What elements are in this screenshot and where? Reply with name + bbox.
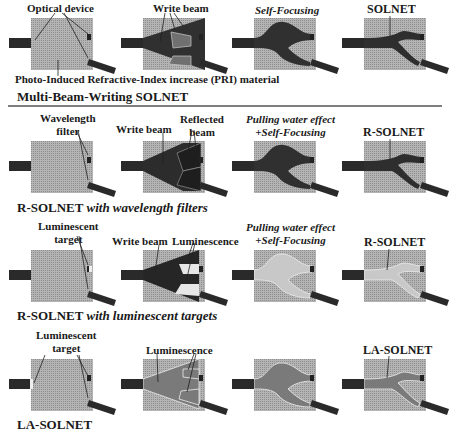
label-optical-device: Optical device: [27, 3, 94, 14]
label-r-solnet-2: R-SOLNET: [364, 237, 425, 248]
row2-panel2-write-reflected: [121, 141, 228, 197]
label-write-beam-2: Write beam: [116, 124, 172, 135]
row2-panel1-filters: [9, 141, 116, 197]
label-wavelength-filter: Wavelength filter: [40, 113, 96, 137]
row1-panel1-initial: [9, 18, 116, 74]
row-title-la-solnet: LA-SOLNET: [17, 418, 92, 431]
row1-panel2-write-beam: [121, 18, 228, 74]
label-luminescent-target-2: Luminescent target: [36, 330, 97, 354]
label-pulling-water-1: Pulling water effect +Self-Focusing: [246, 114, 335, 138]
row-title-r-solnet-luminescent: R-SOLNET with luminescent targets: [17, 309, 217, 322]
label-luminescent-target-1: Luminescent target: [38, 221, 99, 245]
row1-panel3-self-focusing: [232, 18, 339, 74]
row3-panel2-luminescence: [121, 250, 228, 306]
label-write-beam: Write beam: [153, 3, 209, 14]
label-la-solnet: LA-SOLNET: [363, 345, 432, 356]
row3-panel1-targets: [9, 250, 116, 306]
label-reflected-beam: Reflected beam: [180, 114, 224, 138]
label-pulling-water-2: Pulling water effect +Self-Focusing: [246, 222, 335, 246]
row2-leader-lines: [76, 130, 390, 180]
row4-panel4-la-solnet: [342, 359, 449, 415]
row3-panel4-r-solnet: [342, 250, 449, 306]
row4-panel2-luminescence: [121, 359, 228, 415]
row2-panel3-pulling-water: [232, 141, 339, 197]
row-title-multi-beam: Multi-Beam-Writing SOLNET: [17, 90, 188, 103]
row4-panel3-self-focusing: [232, 359, 339, 415]
label-luminescence-1: Luminescence: [172, 236, 239, 247]
label-write-beam-3: Write beam: [112, 236, 168, 247]
row4-panel1-targets: [9, 359, 116, 415]
label-solnet: SOLNET: [367, 4, 416, 15]
label-pri-material: Photo-Induced Refractive-Index increase …: [15, 74, 279, 85]
label-r-solnet-1: R-SOLNET: [363, 127, 424, 138]
row1-panel4-solnet: [342, 18, 449, 74]
row2-panel4-r-solnet: [342, 141, 449, 197]
label-self-focusing: Self-Focusing: [255, 5, 319, 16]
label-luminescence-2: Luminescence: [146, 345, 213, 356]
row-title-text: Multi-Beam-Writing SOLNET: [17, 89, 188, 104]
row-title-r-solnet-filters: R-SOLNET with wavelength filters: [17, 201, 208, 214]
row3-panel3-pulling-water: [232, 250, 339, 306]
